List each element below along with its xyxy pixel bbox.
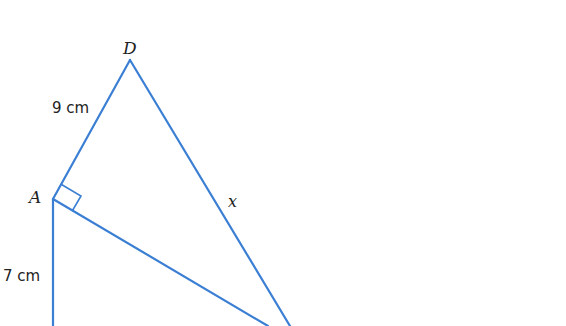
length-label-A-down: 7 cm bbox=[3, 267, 40, 285]
vertex-label-A: A bbox=[27, 187, 41, 207]
geometry-diagram: D A 9 cm 7 cm x bbox=[0, 0, 566, 326]
vertex-label-D: D bbox=[122, 38, 137, 58]
length-label-AD: 9 cm bbox=[52, 99, 89, 117]
segment-AD bbox=[53, 60, 130, 199]
unknown-label-x: x bbox=[228, 192, 237, 211]
segment-D-bottom bbox=[130, 60, 290, 326]
segment-A-bottom-right bbox=[53, 199, 268, 326]
